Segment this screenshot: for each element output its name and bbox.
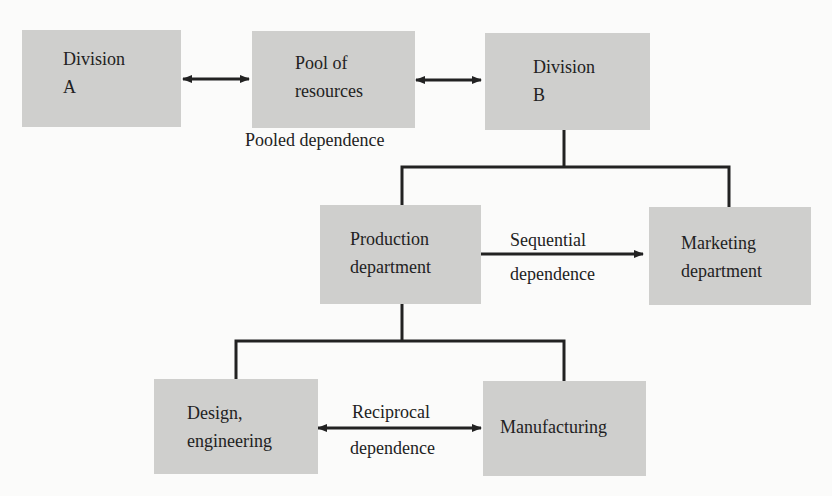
- marketing-line1: Marketing: [681, 229, 811, 257]
- division-a-line2: A: [63, 73, 181, 101]
- division-b-line1: Division: [533, 53, 650, 81]
- production-line2: department: [350, 253, 481, 281]
- marketing-line2: department: [681, 257, 811, 285]
- production-line1: Production: [350, 225, 481, 253]
- pooled-dependence-label: Pooled dependence: [245, 128, 384, 152]
- division-b-line2: B: [533, 81, 650, 109]
- marketing-department-box: Marketing department: [649, 207, 811, 305]
- design-engineering-box: Design, engineering: [154, 379, 318, 474]
- pool-of-resources-box: Pool of resources: [252, 31, 415, 128]
- design-line1: Design,: [187, 399, 318, 427]
- sequential-label-1: Sequential: [510, 228, 586, 252]
- manufacturing-box: Manufacturing: [483, 381, 646, 476]
- sequential-label-2: dependence: [510, 262, 595, 286]
- pool-line1: Pool of: [295, 49, 415, 77]
- production-branch: [236, 341, 564, 381]
- manufacturing-line1: Manufacturing: [500, 413, 646, 441]
- production-department-box: Production department: [320, 205, 481, 304]
- pool-line2: resources: [295, 77, 415, 105]
- reciprocal-label-2: dependence: [350, 436, 435, 460]
- division-b-branch: [402, 167, 729, 207]
- division-a-box: Division A: [22, 30, 181, 127]
- design-line2: engineering: [187, 427, 318, 455]
- reciprocal-label-1: Reciprocal: [352, 400, 430, 424]
- division-a-line1: Division: [63, 45, 181, 73]
- division-b-box: Division B: [485, 33, 650, 130]
